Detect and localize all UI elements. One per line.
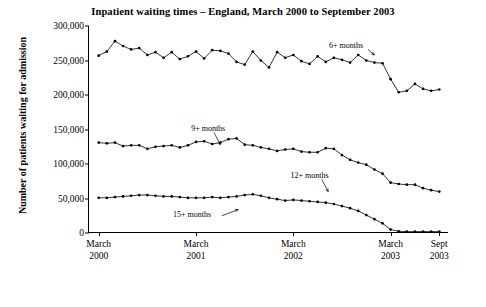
data-point <box>308 200 311 203</box>
data-point <box>389 78 392 81</box>
x-axis-tick-label-line1: March <box>378 238 403 250</box>
data-point <box>316 201 319 204</box>
x-axis-tick-label-line2: 2003 <box>430 250 449 262</box>
data-point <box>414 230 417 233</box>
y-axis-tick-label: 250,000 <box>53 56 89 66</box>
data-point <box>300 60 303 63</box>
data-point <box>324 61 327 64</box>
series-annotation-label: 15+ months <box>173 210 211 219</box>
data-point <box>97 196 100 199</box>
x-axis-tick-label: March2001 <box>184 238 209 262</box>
data-point <box>146 147 149 150</box>
data-point <box>122 195 125 198</box>
x-axis-tick-label: March2000 <box>86 238 111 262</box>
data-point <box>422 187 425 190</box>
data-point <box>300 199 303 202</box>
y-axis-label: Number of patients waiting for admission <box>17 26 28 226</box>
data-point <box>349 159 352 162</box>
data-point <box>422 230 425 233</box>
data-point <box>170 51 173 54</box>
y-axis-tick-mark <box>85 233 89 234</box>
data-point <box>333 56 336 59</box>
data-point <box>114 141 117 144</box>
x-axis-tick-label: Sept2003 <box>430 238 449 262</box>
x-axis-tick-mark <box>391 232 392 236</box>
data-point <box>365 163 368 166</box>
data-point <box>154 51 157 54</box>
data-point <box>130 48 133 51</box>
data-point <box>276 51 279 54</box>
series-annotation-label: 12+ months <box>290 171 328 180</box>
data-point <box>154 145 157 148</box>
y-axis-tick-mark <box>85 60 89 61</box>
data-point <box>341 58 344 61</box>
data-point <box>260 146 263 149</box>
data-point <box>397 230 400 233</box>
data-point <box>292 54 295 57</box>
x-axis-tick-label-line1: March <box>86 238 111 250</box>
x-axis-tick-label-line1: March <box>281 238 306 250</box>
data-point <box>170 144 173 147</box>
data-point <box>187 144 190 147</box>
data-point <box>389 181 392 184</box>
data-point <box>373 218 376 221</box>
data-point <box>316 55 319 58</box>
data-point <box>308 151 311 154</box>
data-point <box>211 196 214 199</box>
series-annotation-label: 6+ months <box>329 41 363 50</box>
data-point <box>260 194 263 197</box>
x-axis-tick-mark <box>439 232 440 236</box>
data-point <box>122 45 125 48</box>
data-point <box>243 143 246 146</box>
data-point <box>227 52 230 55</box>
data-point <box>284 199 287 202</box>
data-point <box>243 63 246 66</box>
x-axis-tick-mark <box>293 232 294 236</box>
chart-lines <box>89 26 449 233</box>
data-point <box>162 145 165 148</box>
data-point <box>430 90 433 93</box>
y-axis-tick-mark <box>85 164 89 165</box>
y-axis-tick-label: 150,000 <box>53 125 89 135</box>
data-point <box>357 54 360 57</box>
data-point <box>235 61 238 64</box>
data-point <box>414 83 417 86</box>
series-line-12-months <box>99 194 440 231</box>
data-point <box>138 144 141 147</box>
data-point <box>122 145 125 148</box>
data-point <box>227 196 230 199</box>
data-point <box>130 144 133 147</box>
data-point <box>373 61 376 64</box>
data-point <box>381 62 384 65</box>
annotation-arrow <box>222 210 238 216</box>
data-point <box>316 151 319 154</box>
data-point <box>365 59 368 62</box>
data-point <box>300 150 303 153</box>
data-point <box>276 150 279 153</box>
data-point <box>243 194 246 197</box>
data-point <box>405 90 408 93</box>
data-point <box>357 161 360 164</box>
data-point <box>114 40 117 43</box>
data-point <box>203 57 206 60</box>
data-point <box>251 50 254 53</box>
y-axis-tick-mark <box>85 198 89 199</box>
data-point <box>178 196 181 199</box>
data-point <box>235 195 238 198</box>
data-point <box>422 87 425 90</box>
data-point <box>292 199 295 202</box>
data-point <box>324 201 327 204</box>
data-point <box>397 183 400 186</box>
data-point <box>381 172 384 175</box>
data-point <box>187 196 190 199</box>
data-point <box>146 54 149 57</box>
data-point <box>276 198 279 201</box>
data-point <box>284 56 287 59</box>
annotation-arrow <box>322 179 328 191</box>
data-point <box>373 168 376 171</box>
data-point <box>365 214 368 217</box>
x-axis-tick-label-line1: Sept <box>430 238 449 250</box>
data-point <box>341 205 344 208</box>
data-point <box>138 47 141 50</box>
data-point <box>438 88 441 91</box>
